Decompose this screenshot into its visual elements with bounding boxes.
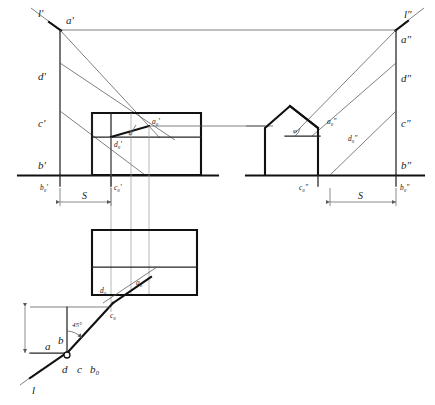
origin-node	[64, 352, 70, 358]
detail-angle-label: 45°	[72, 321, 82, 329]
front-view-group: φ l' a' d' c' b' a₀' d₀' b₀' c₀' S	[31, 7, 396, 312]
front-ray-label: l'	[38, 7, 44, 19]
plan-view-group: d₀ a₀	[92, 230, 197, 303]
detail-point-b0-label: b₀	[90, 363, 100, 375]
side-point-d-label: d″	[401, 72, 412, 84]
side-point-b0-label: b₀″	[400, 183, 410, 192]
side-dimension-s-label: S	[358, 190, 363, 201]
side-point-a0-label: a₀″	[327, 117, 337, 126]
detail-point-c-label: c	[77, 363, 82, 375]
detail-ray-label: l	[32, 384, 35, 396]
front-point-a-label: a'	[66, 14, 75, 26]
side-point-b-label: b″	[401, 159, 412, 171]
front-point-a0-label: a₀'	[152, 117, 160, 126]
side-ray-label: l″	[404, 8, 412, 20]
detail-point-d-label: d	[62, 363, 68, 375]
front-point-d0-label: d₀'	[114, 140, 122, 149]
technical-drawing-page: φ l' a' d' c' b' a₀' d₀' b₀' c₀' S	[0, 0, 435, 405]
front-point-c-label: c'	[38, 117, 46, 129]
front-point-c0-label: c₀'	[114, 183, 122, 192]
front-dimension-s-label: S	[82, 190, 87, 201]
front-point-d-label: d'	[38, 70, 47, 82]
detail-point-b-label: b	[58, 334, 64, 346]
side-point-c0-label: c₀″	[299, 183, 309, 192]
front-dimension-s: S	[60, 188, 111, 206]
front-point-b0-label: b₀'	[40, 183, 48, 192]
angle-detail-group: 45° a b d c b₀ c₀ l	[20, 303, 116, 396]
detail-point-a-label: a	[45, 340, 51, 352]
drawing-canvas: φ l' a' d' c' b' a₀' d₀' b₀' c₀' S	[0, 0, 435, 405]
side-point-d0-label: d₀″	[348, 134, 358, 143]
side-point-a-label: a″	[401, 33, 412, 45]
detail-point-c0-label: c₀	[110, 311, 116, 320]
side-angle-label: φ	[293, 127, 297, 135]
front-angle-label: φ	[129, 129, 133, 137]
side-point-c-label: c″	[401, 117, 411, 129]
side-dimension-s: S	[330, 188, 396, 206]
front-point-b-label: b'	[38, 159, 47, 171]
plan-point-d0-label: d₀	[100, 286, 107, 295]
plan-point-a0-label: a₀	[136, 278, 143, 287]
